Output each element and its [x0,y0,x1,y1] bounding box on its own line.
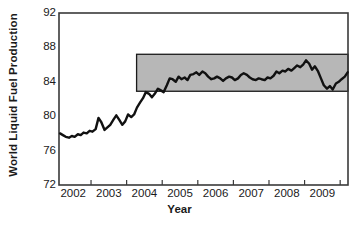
x-tick-label: 2009 [299,188,345,200]
plot-frame [59,13,348,185]
x-axis-tick-labels: 20022003200420052006200720082009 [0,188,359,204]
chart-figure: World Liquid Fuel Production 92888480767… [0,0,359,225]
x-axis-title: Year [0,203,359,215]
